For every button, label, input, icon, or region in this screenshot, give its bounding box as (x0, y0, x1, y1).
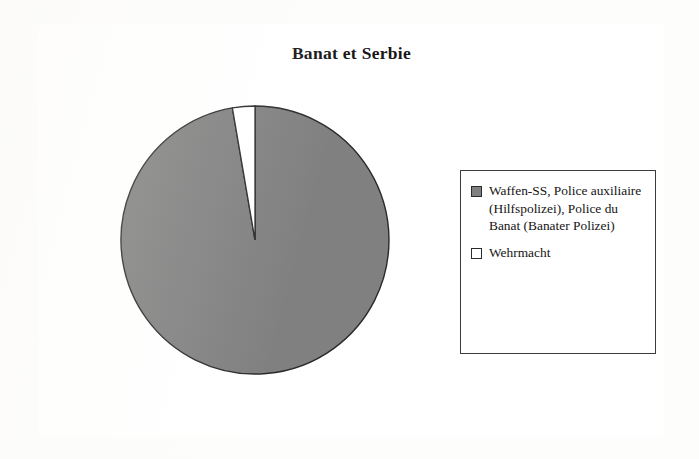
legend-swatch-gray-icon (471, 186, 482, 197)
legend-label-wehrmacht: Wehrmacht (489, 244, 550, 262)
chart-page: Banat et Serbie Waffen-SS, Police auxili… (0, 0, 699, 459)
legend-swatch-white-icon (471, 248, 482, 259)
pie-svg (115, 100, 395, 380)
legend-item-wehrmacht[interactable]: Wehrmacht (471, 244, 646, 262)
chart-frame: Banat et Serbie Waffen-SS, Police auxili… (39, 24, 664, 437)
legend-label-waffen-ss: Waffen-SS, Police auxiliaire (Hilfspoliz… (489, 182, 646, 235)
legend-item-waffen-ss[interactable]: Waffen-SS, Police auxiliaire (Hilfspoliz… (471, 182, 646, 235)
chart-legend: Waffen-SS, Police auxiliaire (Hilfspoliz… (460, 170, 656, 354)
pie-chart (115, 100, 395, 380)
chart-title: Banat et Serbie (39, 43, 664, 64)
